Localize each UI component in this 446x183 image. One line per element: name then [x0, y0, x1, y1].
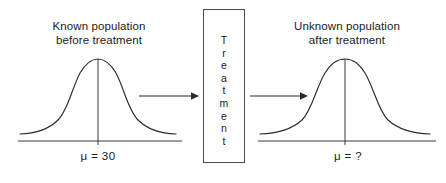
treatment-box: T r e a t m e n t: [203, 9, 245, 163]
right-mean-label: μ = ?: [288, 150, 408, 162]
right-caption-line-2: after treatment: [258, 33, 436, 47]
treatment-letter: t: [204, 135, 244, 148]
treatment-letter: e: [204, 110, 244, 123]
treatment-vertical-label: T r e a t m e n t: [204, 34, 244, 147]
left-population-caption: Known population before treatment: [10, 19, 188, 47]
left-caption-line-1: Known population: [10, 19, 188, 33]
treatment-letter: t: [204, 84, 244, 97]
arrow-into-treatment-head: [191, 92, 199, 100]
treatment-effect-diagram: Known population before treatment μ = 30…: [0, 0, 446, 183]
treatment-letter: r: [204, 47, 244, 60]
right-caption-line-1: Unknown population: [258, 19, 436, 33]
treatment-letter: n: [204, 122, 244, 135]
treatment-letter: a: [204, 72, 244, 85]
treatment-letter: m: [204, 97, 244, 110]
arrow-into-treatment: [139, 89, 199, 103]
left-mean-label: μ = 30: [38, 150, 158, 162]
right-distribution-panel: [254, 52, 440, 147]
treatment-letter: T: [204, 34, 244, 47]
treatment-letter: e: [204, 59, 244, 72]
right-population-caption: Unknown population after treatment: [258, 19, 436, 47]
left-caption-line-2: before treatment: [10, 33, 188, 47]
